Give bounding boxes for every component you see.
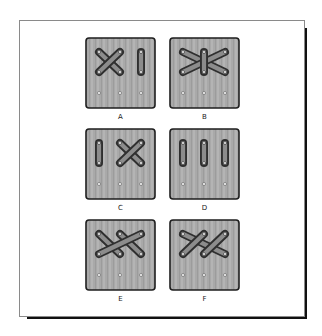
lace-hole <box>223 182 227 186</box>
panel-a <box>85 37 156 109</box>
lace-hole <box>139 91 143 95</box>
lace-hole <box>118 70 121 73</box>
lace-hole <box>139 161 142 164</box>
lace-hole <box>181 252 184 255</box>
panel-label-b: B <box>169 113 240 121</box>
lace-hole <box>97 161 100 164</box>
lace-hole <box>223 50 226 53</box>
panel-label-e: E <box>85 295 156 303</box>
lace-hole <box>139 182 143 186</box>
lace-hole <box>97 273 101 277</box>
lace-hole <box>97 232 100 235</box>
lace-hole <box>181 91 185 95</box>
lace-hole <box>223 161 226 164</box>
lace-hole <box>139 70 142 73</box>
lace-hole <box>202 273 206 277</box>
panel-b <box>169 37 240 109</box>
lace-hole <box>139 141 142 144</box>
lace-hole <box>223 91 227 95</box>
lace-hole <box>118 50 121 53</box>
lace-hole <box>223 273 227 277</box>
lace-hole <box>181 182 185 186</box>
lace-hole <box>97 50 100 53</box>
lace-hole <box>181 161 184 164</box>
lace-hole <box>202 182 206 186</box>
lace-hole <box>118 141 121 144</box>
figure-frame <box>19 20 305 317</box>
lace-hole <box>118 182 122 186</box>
lace-hole <box>202 232 205 235</box>
lace-hole <box>181 70 184 73</box>
panel-label-a: A <box>85 113 156 121</box>
lace-hole <box>97 70 100 73</box>
panel-e <box>85 219 156 291</box>
lace-hole <box>202 91 206 95</box>
lace-hole <box>139 50 142 53</box>
lace-hole <box>223 141 226 144</box>
panel-d <box>169 128 240 200</box>
lace-hole <box>223 232 226 235</box>
lace-hole <box>181 141 184 144</box>
lace-hole <box>118 91 122 95</box>
lace-hole <box>97 252 100 255</box>
panel-label-d: D <box>169 204 240 212</box>
lace-hole <box>139 252 142 255</box>
panel-label-f: F <box>169 295 240 303</box>
lace-hole <box>223 252 226 255</box>
panel-c <box>85 128 156 200</box>
lace-hole <box>139 232 142 235</box>
lace-hole <box>181 273 185 277</box>
lace-hole <box>202 161 205 164</box>
lace-hole <box>202 252 205 255</box>
lace-hole <box>118 252 121 255</box>
lace-hole <box>118 273 122 277</box>
lace-hole <box>202 50 205 53</box>
lace-hole <box>97 182 101 186</box>
lace-hole <box>97 141 100 144</box>
lace-hole <box>181 50 184 53</box>
lace-hole <box>202 70 205 73</box>
lace-hole <box>202 141 205 144</box>
lace-hole <box>223 70 226 73</box>
lace-hole <box>181 232 184 235</box>
panel-f <box>169 219 240 291</box>
panel-label-c: C <box>85 204 156 212</box>
lace-hole <box>118 232 121 235</box>
lace-hole <box>118 161 121 164</box>
lace-hole <box>139 273 143 277</box>
lace-hole <box>97 91 101 95</box>
